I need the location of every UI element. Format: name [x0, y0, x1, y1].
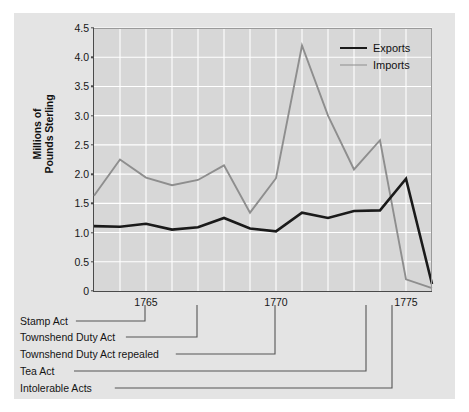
y-axis-title: Millions of Pounds Sterling: [14, 64, 72, 204]
legend-swatch-imports: [340, 60, 367, 70]
y-tick-label: 2.0: [74, 168, 89, 180]
plot-area: 00.51.01.52.02.53.03.54.04.5 17651770177…: [93, 28, 432, 292]
y-tick-label: 4.5: [74, 22, 89, 34]
series-line-imports: [94, 46, 432, 289]
y-tick-mark: [91, 232, 94, 233]
y-axis-title-line-1: Millions of: [31, 95, 44, 174]
legend-item-imports: Imports: [340, 56, 432, 73]
annotation-label: Townshend Duty Act repealed: [20, 348, 159, 360]
y-tick-label: 0: [83, 285, 89, 297]
annotation-label: Stamp Act: [20, 315, 68, 327]
y-tick-mark: [91, 261, 94, 262]
y-axis-title-line-2: Pounds Sterling: [43, 95, 56, 174]
y-tick-mark: [91, 290, 94, 291]
annotation-label: Townshend Duty Act: [20, 331, 115, 343]
y-tick-mark: [91, 203, 94, 204]
y-tick-label: 1.5: [74, 197, 89, 209]
y-tick-mark: [91, 86, 94, 87]
annotation-leader: [176, 305, 275, 354]
y-tick-label: 3.5: [74, 80, 89, 92]
x-tick-label: 1770: [264, 296, 287, 308]
x-tick-label: 1765: [134, 296, 157, 308]
annotation-leader: [115, 305, 392, 388]
y-tick-mark: [91, 144, 94, 145]
annotation-label: Tea Act: [20, 365, 54, 377]
y-tick-label: 2.5: [74, 139, 89, 151]
y-tick-mark: [91, 173, 94, 174]
y-tick-mark: [91, 115, 94, 116]
legend-swatch-exports: [340, 43, 367, 53]
legend-label-exports: Exports: [373, 42, 410, 54]
annotation-leader: [74, 305, 366, 371]
legend-item-exports: Exports: [340, 39, 432, 56]
y-tick-label: 0.5: [74, 256, 89, 268]
legend-label-imports: Imports: [373, 59, 410, 71]
annotation-label: Intolerable Acts: [20, 382, 92, 394]
y-tick-label: 4.0: [74, 51, 89, 63]
y-tick-label: 3.0: [74, 110, 89, 122]
x-tick-label: 1775: [394, 296, 417, 308]
y-tick-mark: [91, 57, 94, 58]
chart-legend: Exports Imports: [340, 39, 432, 73]
y-tick-label: 1.0: [74, 227, 89, 239]
chart-figure: Millions of Pounds Sterling 00.51.01.52.…: [14, 13, 455, 399]
y-tick-mark: [91, 27, 94, 28]
annotation-block: Stamp ActTownshend Duty ActTownshend Dut…: [14, 311, 455, 399]
